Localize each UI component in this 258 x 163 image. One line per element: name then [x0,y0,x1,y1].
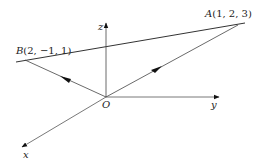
point-A-coords: (1, 2, 3) [212,8,252,19]
point-B-label: B(2, −1, 1) [15,45,71,56]
line-AB [16,23,245,62]
origin-label: O [102,99,110,110]
x-axis-label: x [23,149,29,160]
point-A-label: A(1, 2, 3) [204,8,252,19]
z-axis-label: z [97,21,104,32]
vector-diagram: z y x O A(1, 2, 3) B(2, −1, 1) [0,0,258,163]
point-B-name: B [15,45,23,56]
y-axis-label: y [210,99,217,110]
point-B-coords: (2, −1, 1) [23,45,71,56]
point-A-name: A [204,8,212,19]
vector-OB-arrow-icon [60,76,71,83]
x-axis [22,97,106,147]
